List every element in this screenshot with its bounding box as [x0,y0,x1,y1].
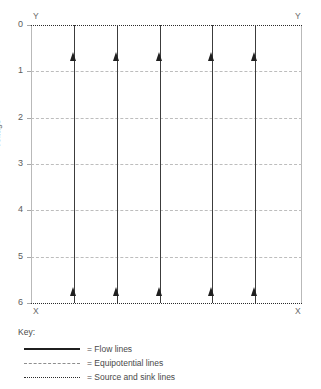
y-axis-tick-mark [27,71,31,72]
legend-item-label: = Equipotential lines [87,358,163,368]
y-axis-tick-mark [27,25,31,26]
legend: Key: = Flow lines= Equipotential lines= … [18,327,308,384]
plot-area [31,25,302,303]
y-axis-tick-mark [27,164,31,165]
axis-label-top-left: Y [33,11,39,21]
equipotential-line [31,210,302,211]
legend-item: = Source and sink lines [18,370,308,384]
axis-label-top-right: Y [295,11,301,21]
flow-direction-arrow [251,52,257,61]
equipotential-line [31,118,302,119]
y-axis-tick-label: 2 [11,112,23,122]
legend-title: Key: [18,327,308,337]
y-axis-tick-label: 0 [11,19,23,29]
legend-line-sample-dotted [24,377,80,378]
legend-rows: = Flow lines= Equipotential lines= Sourc… [18,342,308,384]
flow-line [160,25,161,303]
source-sink-line-source [31,25,302,26]
axis-label-bottom-right: X [295,306,301,316]
flow-direction-arrow [208,52,214,61]
legend-line-sample-solid [24,348,80,350]
legend-item: = Flow lines [18,342,308,356]
flow-direction-arrow [70,287,76,296]
flow-line [255,25,256,303]
y-axis-tick-label: 3 [11,158,23,168]
y-axis-tick-label: 5 [11,251,23,261]
y-axis-tick-label: 1 [11,65,23,75]
axis-label-bottom-left: X [33,306,39,316]
flow-direction-arrow [113,52,119,61]
flow-direction-arrow [113,287,119,296]
y-axis-tick-label: 4 [11,204,23,214]
equipotential-line [31,71,302,72]
legend-item-label: = Source and sink lines [87,372,175,382]
flow-direction-arrow [70,52,76,61]
equipotential-line [31,164,302,165]
flow-direction-arrow [208,287,214,296]
flow-line [117,25,118,303]
flow-direction-arrow [156,52,162,61]
y-axis-tick-label: 6 [11,297,23,307]
legend-item: = Equipotential lines [18,356,308,370]
y-axis-tick-mark [27,257,31,258]
y-axis-tick-mark [27,118,31,119]
y-axis-title: Voltage [0,120,2,148]
flow-direction-arrow [251,287,257,296]
y-axis-tick-mark [27,303,31,304]
flow-direction-arrow [156,287,162,296]
equipotential-line [31,257,302,258]
legend-item-label: = Flow lines [87,344,132,354]
y-axis-tick-mark [27,210,31,211]
flow-line [212,25,213,303]
flow-line [74,25,75,303]
source-sink-line-sink [31,303,302,304]
legend-line-sample-dashed [24,363,80,364]
flow-net-figure: 0123456 YYXX Voltage Key: = Flow lines= … [0,0,321,389]
